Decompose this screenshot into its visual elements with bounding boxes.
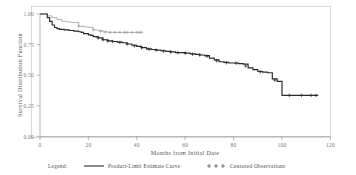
y-tick-label-0: 0.00: [23, 134, 34, 140]
y-tick-label-050: 0.50: [23, 72, 34, 78]
legend-label-censored: Censored Observations: [230, 163, 285, 169]
x-tick-label-120: 120: [326, 142, 335, 148]
x-axis-title: Months from Initial Date: [151, 150, 219, 156]
x-tick-label-60: 60: [182, 142, 188, 148]
y-tick-label-025: 0.25: [23, 103, 34, 109]
y-tick-label-1: 1.00: [23, 11, 34, 17]
x-tick-label-20: 20: [85, 142, 91, 148]
x-tick-label-80: 80: [231, 142, 237, 148]
x-tick-label-0: 0: [39, 142, 42, 148]
kaplan-meier-chart: 1.00 0.75 0.50 0.25 0.00 0 20 40 60 80 1…: [0, 0, 356, 175]
x-tick-label-40: 40: [134, 142, 140, 148]
legend-title: Legend:: [48, 163, 68, 169]
survival-plot-figure: 1.00 0.75 0.50 0.25 0.00 0 20 40 60 80 1…: [0, 0, 356, 175]
x-tick-label-100: 100: [278, 142, 287, 148]
y-tick-label-075: 0.75: [23, 42, 34, 48]
legend-label-estimate: Product-Limit Estimate Curve: [108, 163, 181, 169]
figure-background: [0, 0, 356, 175]
y-axis-title: Survival Distribution Function: [17, 33, 23, 117]
